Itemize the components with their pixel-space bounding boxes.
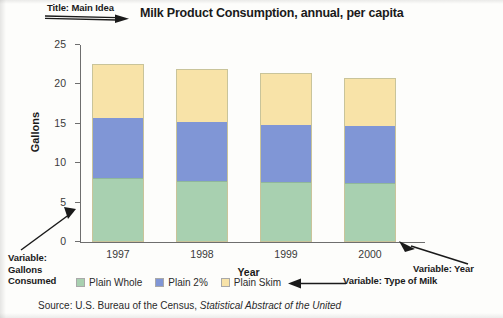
annotation-title-arrow-icon: [45, 13, 135, 23]
stacked-bar[interactable]: [260, 73, 312, 242]
x-axis-line: [80, 242, 425, 243]
chart-title: Milk Product Consumption, annual, per ca…: [140, 6, 403, 20]
bar-segment[interactable]: [177, 120, 227, 181]
stacked-bar[interactable]: [92, 64, 144, 242]
stacked-bar[interactable]: [344, 78, 396, 242]
legend-label: Plain Whole: [89, 277, 142, 288]
legend-swatch: [76, 278, 85, 287]
legend-label: Plain Skim: [234, 277, 281, 288]
legend-swatch: [155, 278, 164, 287]
annotation-gallons-consumed: Variable: Gallons Consumed: [8, 252, 56, 287]
bar-segment[interactable]: [345, 124, 395, 182]
y-axis-tick: 10: [75, 162, 80, 163]
y-axis-tick-label: 15: [54, 117, 66, 129]
source-prefix: Source: U.S. Bureau of the Census,: [38, 300, 200, 311]
source-publication: Statistical Abstract of the United: [200, 300, 341, 311]
y-axis-tick: 20: [75, 83, 80, 84]
bar-segment[interactable]: [345, 183, 395, 241]
bar-segment[interactable]: [93, 65, 143, 118]
x-axis-tick-label: 1999: [260, 248, 312, 260]
annotation-year-arrow-icon: [398, 240, 482, 266]
legend-item[interactable]: Plain 2%: [155, 277, 207, 288]
y-axis-line: [80, 45, 81, 243]
bar-segment[interactable]: [261, 74, 311, 124]
y-axis-tick-label: 25: [54, 38, 66, 50]
y-axis-tick-label: 10: [54, 156, 66, 168]
annotation-milk-arrow-icon: [288, 277, 346, 290]
y-axis-tick: 15: [75, 123, 80, 124]
legend-swatch: [221, 278, 230, 287]
bar-segment[interactable]: [177, 70, 227, 123]
stacked-bar[interactable]: [176, 69, 228, 242]
chart-legend: Plain WholePlain 2%Plain Skim: [76, 277, 281, 288]
y-axis-tick: 5: [75, 202, 80, 203]
legend-item[interactable]: Plain Whole: [76, 277, 142, 288]
annotation-title-main-idea: Title: Main Idea: [47, 2, 114, 13]
legend-label: Plain 2%: [168, 277, 207, 288]
bar-segment[interactable]: [93, 178, 143, 241]
y-axis-title: Gallons: [29, 112, 41, 152]
x-axis-tick-label: 1998: [176, 248, 228, 260]
source-caption: Source: U.S. Bureau of the Census, Stati…: [38, 300, 341, 311]
bar-segment[interactable]: [177, 181, 227, 241]
bar-segment[interactable]: [345, 79, 395, 126]
y-axis-tick: 25: [75, 44, 80, 45]
bar-segment[interactable]: [261, 182, 311, 241]
page-edge-shadow-left: [0, 0, 6, 318]
page-edge-shadow-bottom: [0, 313, 503, 318]
plot-area: 0510152025 1997199819992000 Year: [80, 40, 417, 243]
x-axis-tick-label: 2000: [344, 248, 396, 260]
bar-segment[interactable]: [261, 123, 311, 182]
chart-figure: Title: Main Idea Milk Product Consumptio…: [0, 0, 503, 318]
annotation-gallons-arrow-icon: [18, 205, 80, 253]
annotation-type-of-milk: Variable: Type of Milk: [343, 275, 437, 287]
legend-item[interactable]: Plain Skim: [221, 277, 281, 288]
y-axis-tick-label: 20: [54, 77, 66, 89]
x-axis-tick-label: 1997: [92, 248, 144, 260]
bar-segment[interactable]: [93, 116, 143, 178]
